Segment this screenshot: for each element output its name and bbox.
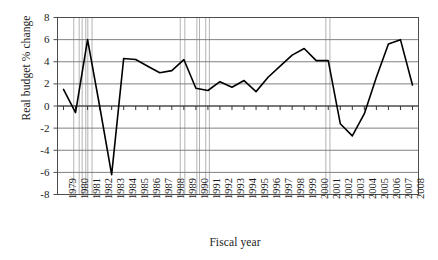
x-tick-label: 1981 bbox=[92, 178, 103, 199]
x-tick-label: 1987 bbox=[164, 178, 175, 199]
y-tick-label: -6 bbox=[24, 167, 50, 178]
chart-figure: Real budget % change Fiscal year 86420-2… bbox=[0, 0, 438, 260]
x-tick-label: 2004 bbox=[368, 178, 379, 199]
x-tick-label: 2001 bbox=[332, 178, 343, 199]
x-tick-label: 1983 bbox=[116, 178, 127, 199]
y-tick-label: -8 bbox=[24, 189, 50, 200]
x-tick-label: 2000 bbox=[320, 178, 331, 199]
x-tick-label: 1979 bbox=[68, 178, 79, 199]
x-tick-label: 1985 bbox=[140, 178, 151, 199]
x-tick-label: 2002 bbox=[344, 178, 355, 199]
x-tick-label: 1986 bbox=[152, 178, 163, 199]
x-tick-label: 1994 bbox=[248, 178, 259, 199]
x-tick-label: 1988 bbox=[176, 178, 187, 199]
x-tick-label: 2007 bbox=[404, 178, 415, 199]
x-tick-label: 2006 bbox=[392, 178, 403, 199]
x-axis-title: Fiscal year bbox=[155, 236, 315, 248]
x-tick-label: 1982 bbox=[104, 178, 115, 199]
y-tick-label: 2 bbox=[24, 78, 50, 89]
x-tick-label: 1993 bbox=[236, 178, 247, 199]
plot-area bbox=[0, 0, 438, 260]
x-tick-label: 1989 bbox=[188, 178, 199, 199]
y-tick-label: -2 bbox=[24, 123, 50, 134]
x-tick-label: 1991 bbox=[212, 178, 223, 199]
x-tick-label: 1998 bbox=[296, 178, 307, 199]
x-tick-label: 1984 bbox=[128, 178, 139, 199]
y-tick-label: 4 bbox=[24, 56, 50, 67]
x-tick-label: 2008 bbox=[416, 178, 427, 199]
data-line-real-budget bbox=[64, 40, 413, 175]
y-tick-label: 0 bbox=[24, 101, 50, 112]
x-tick-label: 1997 bbox=[284, 178, 295, 199]
x-tick-label: 2003 bbox=[356, 178, 367, 199]
y-tick-label: -4 bbox=[24, 145, 50, 156]
x-tick-label: 1996 bbox=[272, 178, 283, 199]
x-tick-label: 1980 bbox=[80, 178, 91, 199]
x-tick-label: 1995 bbox=[260, 178, 271, 199]
y-tick-label: 6 bbox=[24, 34, 50, 45]
x-tick-label: 1990 bbox=[200, 178, 211, 199]
x-tick-label: 2005 bbox=[380, 178, 391, 199]
x-tick-label: 1992 bbox=[224, 178, 235, 199]
x-tick-label: 1999 bbox=[308, 178, 319, 199]
y-tick-label: 8 bbox=[24, 12, 50, 23]
